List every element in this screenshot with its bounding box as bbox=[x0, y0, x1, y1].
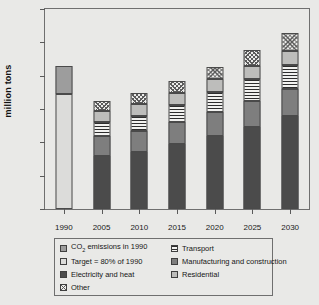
bar-segment-manufacturing_construction bbox=[93, 136, 110, 155]
bar-segment-electricity_heat bbox=[282, 116, 299, 209]
x-axis-tick-label: 2030 bbox=[267, 223, 313, 232]
bar-2005 bbox=[93, 9, 110, 209]
y-axis-tick-mark bbox=[40, 42, 45, 43]
legend-item-manufacturing-and-construction: Manufacturing and construction bbox=[171, 256, 267, 267]
legend-swatch-co2-emissions-1990 bbox=[60, 245, 67, 252]
bar-segment-other bbox=[93, 101, 110, 111]
bar-segment-manufacturing_construction bbox=[169, 122, 186, 144]
legend-item-electricity-and-heat: Electricity and heat bbox=[60, 269, 165, 280]
x-axis-tick-mark bbox=[64, 209, 65, 214]
bar-segment-residential bbox=[206, 79, 223, 92]
bar-segment-other bbox=[244, 50, 261, 65]
legend-swatch-manufacturing-and-construction bbox=[171, 258, 178, 265]
bar-segment-transport bbox=[131, 116, 148, 132]
x-axis-tick-mark bbox=[215, 209, 216, 214]
bar-segment-residential bbox=[244, 66, 261, 79]
legend-column-left: CO2 emissions in 1990 Target = 80% of 19… bbox=[60, 243, 165, 293]
legend-swatch-other bbox=[60, 284, 67, 291]
chart-legend: CO2 emissions in 1990 Target = 80% of 19… bbox=[54, 238, 273, 296]
legend-swatch-residential bbox=[171, 271, 178, 278]
legend-label-manufacturing-and-construction: Manufacturing and construction bbox=[182, 257, 287, 266]
y-axis-tick-mark bbox=[40, 209, 45, 210]
y-axis-tick-mark bbox=[40, 9, 45, 10]
emissions-stacked-bar-chart: million tons 01,0002,0003,0004,0005,0006… bbox=[0, 0, 319, 305]
legend-label-target-80: Target = 80% of 1990 bbox=[71, 257, 143, 266]
bar-segment-electricity_heat bbox=[131, 152, 148, 209]
bar-segment-manufacturing_construction bbox=[244, 101, 261, 127]
bar-segment-target_80 bbox=[55, 94, 72, 209]
y-axis-tick-mark bbox=[40, 176, 45, 177]
bar-segment-transport bbox=[93, 122, 110, 136]
legend-item-other: Other bbox=[60, 282, 165, 293]
legend-item-co2-emissions-1990: CO2 emissions in 1990 bbox=[60, 243, 165, 254]
legend-swatch-electricity-and-heat bbox=[60, 271, 67, 278]
legend-item-transport: Transport bbox=[171, 243, 267, 254]
bar-2030 bbox=[282, 9, 299, 209]
bar-segment-transport bbox=[282, 65, 299, 89]
legend-swatch-target-80 bbox=[60, 258, 67, 265]
bar-segment-other bbox=[169, 81, 186, 93]
y-axis-title: million tons bbox=[3, 31, 13, 151]
bar-2015 bbox=[169, 9, 186, 209]
bar-segment-transport bbox=[169, 105, 186, 123]
bar-2025 bbox=[244, 9, 261, 209]
bar-segment-residential bbox=[169, 93, 186, 105]
bar-2020 bbox=[206, 9, 223, 209]
x-axis-tick-mark bbox=[139, 209, 140, 214]
plot-area: 01,0002,0003,0004,0005,0006,000 19902005… bbox=[44, 8, 310, 210]
bar-segment-manufacturing_construction bbox=[131, 131, 148, 152]
bar-2010 bbox=[131, 9, 148, 209]
x-axis-tick-mark bbox=[252, 209, 253, 214]
bar-segment-residential bbox=[282, 51, 299, 65]
legend-label-transport: Transport bbox=[182, 244, 214, 253]
y-axis-tick-mark bbox=[40, 76, 45, 77]
legend-label-other: Other bbox=[71, 283, 90, 292]
bar-segment-electricity_heat bbox=[169, 144, 186, 209]
bar-segment-electricity_heat bbox=[244, 127, 261, 209]
bar-segment-electricity_heat bbox=[206, 136, 223, 209]
bar-segment-electricity_heat bbox=[93, 156, 110, 209]
legend-column-right: Transport Manufacturing and construction… bbox=[171, 243, 267, 293]
x-axis-tick-mark bbox=[102, 209, 103, 214]
bar-segment-manufacturing_construction bbox=[206, 112, 223, 135]
bar-segment-residential bbox=[93, 111, 110, 122]
legend-label-electricity-and-heat: Electricity and heat bbox=[71, 270, 134, 279]
legend-label-residential: Residential bbox=[182, 270, 219, 279]
bar-segment-other bbox=[282, 33, 299, 51]
x-axis-tick-mark bbox=[290, 209, 291, 214]
legend-item-residential: Residential bbox=[171, 269, 267, 280]
bar-segment-transport bbox=[206, 92, 223, 112]
x-axis-tick-mark bbox=[177, 209, 178, 214]
bar-1990 bbox=[55, 9, 72, 209]
legend-label-co2-emissions-1990: CO2 emissions in 1990 bbox=[71, 242, 147, 255]
bar-segment-manufacturing_construction bbox=[282, 89, 299, 116]
bar-segment-other bbox=[131, 93, 148, 104]
bar-segment-residential bbox=[131, 104, 148, 116]
y-axis-tick-mark bbox=[40, 142, 45, 143]
legend-item-target-80: Target = 80% of 1990 bbox=[60, 256, 165, 267]
legend-swatch-transport bbox=[171, 245, 178, 252]
bar-segment-co2_1990 bbox=[55, 66, 72, 95]
bar-segment-transport bbox=[244, 79, 261, 101]
bar-segment-other bbox=[206, 67, 223, 79]
y-axis-tick-mark bbox=[40, 109, 45, 110]
